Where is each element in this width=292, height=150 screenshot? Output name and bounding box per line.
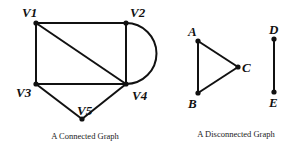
connected-graph: V1 V2 V3 V4 V5 A Connected Graph [16, 5, 156, 141]
label-v3: V3 [16, 85, 32, 100]
node-v1 [33, 20, 38, 25]
node-e [271, 89, 276, 94]
caption-connected: A Connected Graph [51, 131, 119, 141]
caption-disconnected: A Disconnected Graph [197, 129, 275, 139]
node-b [195, 90, 200, 95]
label-c: C [242, 60, 251, 75]
edge-b-c [198, 67, 238, 93]
node-c [235, 64, 240, 69]
disconnected-graph: A B C D E A Disconnected Graph [187, 22, 279, 139]
label-v4: V4 [132, 88, 148, 103]
label-v5: V5 [77, 103, 93, 118]
edge-v2-v4-curved [126, 23, 156, 84]
node-v3 [33, 81, 38, 86]
edge-a-c [198, 41, 238, 67]
label-e: E [268, 95, 278, 110]
label-b: B [187, 96, 197, 111]
node-v4 [123, 81, 128, 86]
node-d [271, 36, 276, 41]
label-v1: V1 [22, 5, 37, 20]
node-v2 [123, 20, 128, 25]
edge-v1-v4 [36, 23, 126, 84]
label-a: A [187, 24, 197, 39]
node-a [195, 38, 200, 43]
label-d: D [268, 22, 279, 37]
graph-diagram: V1 V2 V3 V4 V5 A Connected Graph A B C D… [0, 0, 292, 150]
edge-v3-v5 [36, 84, 82, 119]
label-v2: V2 [130, 5, 146, 20]
